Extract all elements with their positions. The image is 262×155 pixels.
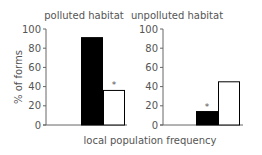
right-panel: 020406080100* [139,24,243,131]
y-axis-label: % of forms [13,50,24,104]
chart-figure: polluted habitat unpolluted habitat % of… [0,0,262,155]
y-tick-label: 0 [35,120,41,131]
right-panel-title: unpolluted habitat [131,10,223,21]
y-tick-label: 20 [28,100,41,111]
bar-white [219,82,240,125]
bar-black [197,112,218,125]
y-tick-label: 40 [145,81,158,92]
left-panel-title: polluted habitat [44,10,124,21]
y-tick-label: 40 [28,81,41,92]
y-tick-label: 20 [145,100,158,111]
x-axis-label: local population frequency [83,135,216,146]
y-tick-label: 100 [139,24,158,35]
significance-asterisk: * [112,80,117,90]
bar-white [104,90,125,125]
significance-asterisk: * [205,102,210,112]
y-tick-label: 0 [152,120,158,131]
y-tick-label: 60 [145,62,158,73]
bar-black [82,38,103,125]
left-panel: 020406080100* [22,24,127,131]
y-tick-label: 80 [28,43,41,54]
y-tick-label: 100 [22,24,41,35]
y-tick-label: 60 [28,62,41,73]
y-tick-label: 80 [145,43,158,54]
